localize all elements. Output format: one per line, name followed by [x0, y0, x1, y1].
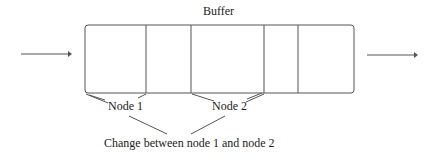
input-arrowhead-icon — [68, 51, 72, 57]
caption-label: Change between node 1 and node 2 — [104, 136, 275, 150]
node-1-label: Node 1 — [108, 99, 143, 113]
buffer-title: Buffer — [203, 4, 234, 18]
node2-brace-left — [192, 94, 214, 101]
caption-brace-left — [129, 116, 167, 134]
node1-brace-right — [138, 94, 146, 98]
node1-brace-left-2 — [89, 95, 105, 100]
buffer-box — [85, 25, 354, 93]
output-arrowhead-icon — [414, 52, 418, 58]
node-2-label: Node 2 — [212, 99, 247, 113]
caption-brace-right — [191, 116, 225, 134]
